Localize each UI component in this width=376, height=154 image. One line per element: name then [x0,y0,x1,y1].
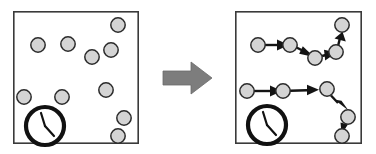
left-panel [14,12,138,145]
detection-dot [117,111,131,125]
detection-dot [61,37,75,51]
track-node [320,82,334,96]
track-node [335,18,349,32]
detection-dot [111,18,125,32]
detection-dot [55,90,69,104]
right-panel [236,12,361,144]
detection-dot [85,50,99,64]
detection-dot [31,38,45,52]
detection-dot [104,43,118,57]
track-node [251,38,265,52]
detection-dot [99,83,113,97]
track-node [335,129,349,143]
track-node [329,45,343,59]
clock-icon [248,106,286,144]
track-node [283,38,297,52]
figure-root: Multi-object tracking over time Left pan… [0,0,376,154]
clock-icon [26,107,64,145]
detection-dot [111,129,125,143]
track-node [276,84,290,98]
track-node [240,84,254,98]
track-node [341,110,355,124]
track-link [290,90,307,91]
detection-dot [17,90,31,104]
track-node [308,51,322,65]
transition-arrow-shape [163,62,212,94]
tracking-diagram [0,0,376,154]
transition-arrow [163,62,212,94]
